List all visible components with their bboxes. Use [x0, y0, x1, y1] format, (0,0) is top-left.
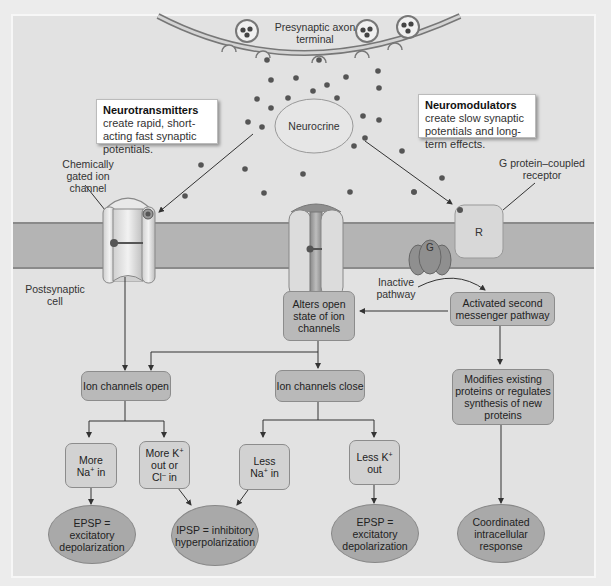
alters-open-state-box: Alters open state of ion channels [283, 291, 355, 341]
more-na-line2: Na+ in [77, 466, 106, 478]
neurocrine-label: Neurocrine [275, 120, 353, 132]
modulated-ion-channel [289, 204, 343, 297]
activated-second-messenger-box: Activated second messenger pathway [450, 292, 555, 326]
epsp-right-oval: EPSP = excitatory depolarization [331, 504, 419, 563]
less-na-line1: Less [253, 455, 275, 467]
coordinated-response-oval: Coordinated intracellular response [457, 504, 545, 563]
inactive-pathway-label: Inactive pathway [372, 276, 420, 300]
ion-channels-close-box: Ion channels close [275, 370, 365, 402]
chemically-gated-channel-label: Chemically gated ion channel [48, 158, 128, 194]
neurotransmitters-term: Neurotransmitters [103, 104, 198, 116]
more-k-line3: Cl– in [152, 471, 177, 483]
presynaptic-axon-terminal-label: Presynaptic axon terminal [270, 21, 360, 45]
g-protein-letter: G [422, 242, 438, 254]
neurotransmitters-callout: Neurotransmitters create rapid, short-ac… [96, 99, 218, 144]
neuromodulators-term: Neuromodulators [425, 99, 517, 111]
receptor-letter: R [470, 226, 488, 238]
less-na-line2: Na+ in [250, 467, 279, 479]
more-na-in-box: More Na+ in [65, 443, 117, 488]
less-na-in-box: Less Na+ in [239, 444, 290, 490]
more-na-line1: More [79, 454, 103, 466]
chemically-gated-ion-channel [103, 198, 155, 283]
less-k-line1: Less K+ [356, 451, 392, 463]
less-k-line2: out [367, 463, 382, 475]
neuromodulators-callout: Neuromodulators create slow synaptic pot… [418, 94, 536, 138]
modifies-proteins-box: Modifies existing proteins or regulates … [452, 369, 554, 425]
more-k-line2: out or [151, 459, 178, 471]
postsynaptic-cell-label: Postsynaptic cell [20, 283, 90, 307]
gpcr-label: G protein–coupled receptor [497, 157, 587, 181]
ipsp-oval: IPSP = inhibitory hyperpolarization [171, 505, 259, 566]
epsp-left-oval: EPSP = excitatory depolarization [48, 505, 136, 564]
more-k-line1: More K+ [146, 447, 184, 459]
ion-channels-open-box: Ion channels open [81, 371, 171, 401]
more-k-out-cl-in-box: More K+ out or Cl– in [139, 441, 190, 489]
less-k-out-box: Less K+ out [349, 440, 400, 485]
